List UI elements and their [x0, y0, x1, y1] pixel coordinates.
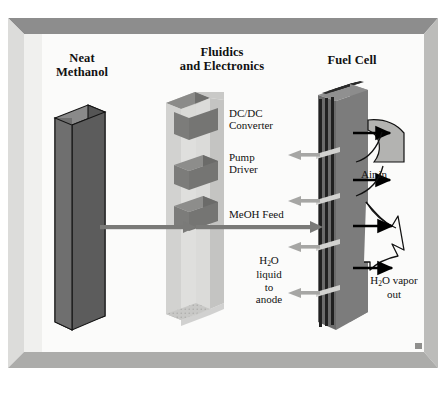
label-pump-line2: Driver — [229, 163, 307, 175]
label-air-in: Air in — [361, 168, 417, 180]
label-h2o-liquid-line3: to — [244, 281, 294, 293]
fuel-cell-system-diagram: Neat Methanol Fluidics and Electronics F… — [0, 0, 447, 402]
label-h2o-vapor-word: vapor — [393, 274, 418, 286]
label-meoh-feed-text: MeOH Feed — [229, 208, 315, 220]
label-pump-line1: Pump — [229, 151, 307, 163]
label-h2o-vapor-line3: out — [352, 288, 436, 300]
label-dcdc-line1: DC/DC — [229, 107, 307, 119]
formula-o-suffix-2: O — [382, 274, 390, 286]
title-fuel-cell-text: Fuel Cell — [300, 54, 404, 68]
label-pump-driver: Pump Driver — [229, 151, 307, 176]
label-h2o-liquid-line4: anode — [244, 293, 294, 305]
title-neat-methanol-line2: Methanol — [30, 66, 134, 80]
label-h2o-vapor-line1: H2O vapor — [352, 274, 436, 288]
formula-h-prefix: H — [259, 254, 267, 266]
label-h2o-vapor-out: H2O vapor out — [352, 274, 436, 301]
title-fluidics-and-electronics: Fluidics and Electronics — [147, 46, 297, 73]
label-dcdc-converter: DC/DC Converter — [229, 107, 307, 132]
label-air-in-text: Air in — [361, 168, 417, 180]
label-h2o-liquid-formula: H2O — [244, 254, 294, 268]
label-h2o-liquid-to-anode: H2O liquid to anode — [244, 254, 294, 305]
formula-o-suffix: O — [271, 254, 279, 266]
title-fluidics-line1: Fluidics — [147, 46, 297, 60]
label-meoh-feed: MeOH Feed — [229, 208, 315, 220]
label-dcdc-line2: Converter — [229, 119, 307, 131]
title-fluidics-line2: and Electronics — [147, 60, 297, 74]
title-neat-methanol: Neat Methanol — [30, 52, 134, 79]
label-h2o-liquid-line2: liquid — [244, 268, 294, 280]
title-fuel-cell: Fuel Cell — [300, 54, 404, 68]
title-neat-methanol-line1: Neat — [30, 52, 134, 66]
